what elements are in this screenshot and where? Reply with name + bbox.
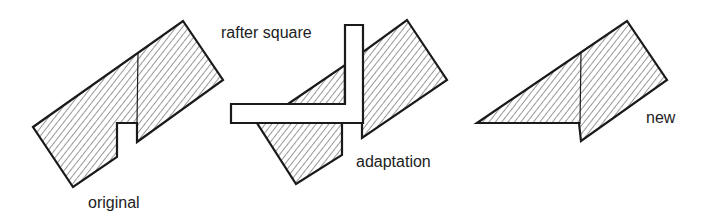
- new-shape: [477, 21, 667, 141]
- rafter-diagram: original rafter square adaptation new: [0, 0, 705, 224]
- original-label: original: [88, 194, 140, 211]
- adaptation-label: adaptation: [356, 153, 431, 170]
- original-shape: [33, 21, 223, 187]
- rafter-square-label: rafter square: [221, 24, 312, 41]
- new-label: new: [646, 109, 676, 126]
